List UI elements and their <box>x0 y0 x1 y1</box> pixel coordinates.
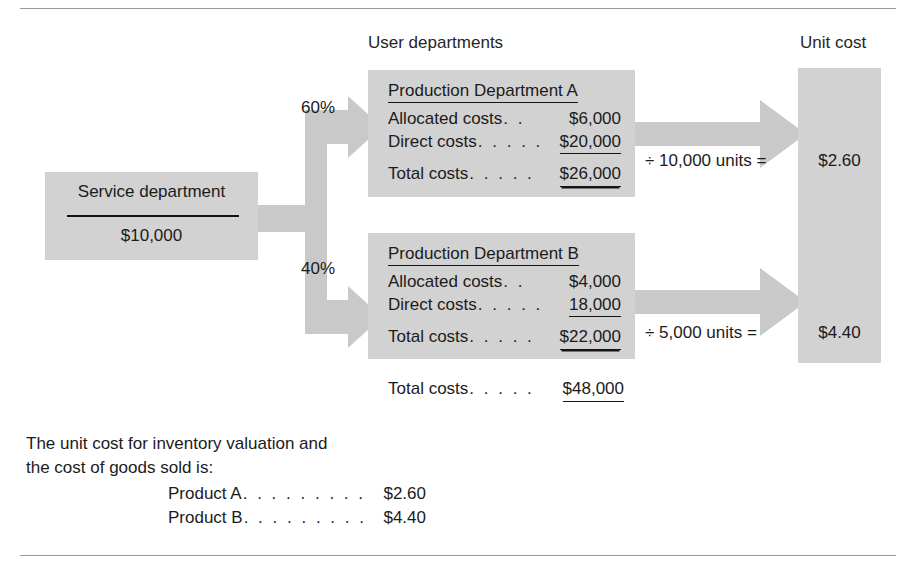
product-label: Product A <box>168 482 242 505</box>
cost-value: $22,000 <box>560 326 621 350</box>
unit-cost-column-box <box>798 68 881 363</box>
cost-label: Direct costs <box>388 131 477 154</box>
leader-dots: . . . . . <box>477 131 560 154</box>
leader-dots: . . . . . <box>468 326 559 349</box>
cost-value: $26,000 <box>560 163 621 187</box>
leader-dots: . . . . . . . . . <box>243 506 384 529</box>
cost-row: Total costs . . . . . $22,000 <box>388 326 621 350</box>
allocation-percent-a: 60% <box>301 98 335 118</box>
allocation-percent-b: 40% <box>301 259 335 279</box>
cost-row: Allocated costs . . $4,000 <box>388 271 621 294</box>
product-label: Product B <box>168 506 243 529</box>
leader-dots: . . . . . <box>468 163 559 186</box>
cost-row: Total costs . . . . . $26,000 <box>388 163 621 187</box>
leader-dots: . . . . . <box>468 378 562 401</box>
cost-label: Total costs <box>388 326 468 349</box>
service-department-amount: $10,000 <box>45 226 258 246</box>
cost-row: Total costs . . . . . $48,000 <box>388 378 624 402</box>
footer-note: The unit cost for inventory valuation an… <box>26 432 426 529</box>
production-department-b-title: Production Department B <box>388 244 579 266</box>
cost-row: Direct costs . . . . . $20,000 <box>388 131 621 155</box>
list-item: Product B . . . . . . . . . $4.40 <box>168 506 426 529</box>
product-value: $2.60 <box>383 482 426 505</box>
leader-dots: . . <box>502 271 569 294</box>
branch-arrow <box>258 96 382 348</box>
cost-row: Allocated costs . . $6,000 <box>388 108 621 131</box>
cost-label: Direct costs <box>388 294 477 317</box>
service-department-title: Service department <box>45 182 258 202</box>
cost-value: $48,000 <box>563 378 624 402</box>
cost-value: $6,000 <box>569 108 621 131</box>
note-line-2: the cost of goods sold is: <box>26 456 426 480</box>
list-item: Product A . . . . . . . . . $2.60 <box>168 482 426 505</box>
service-department-divider <box>67 215 239 217</box>
leader-dots: . . <box>502 108 569 131</box>
cost-label: Total costs <box>388 163 468 186</box>
cost-label: Allocated costs <box>388 271 502 294</box>
cost-label: Total costs <box>388 378 468 401</box>
cost-label: Allocated costs <box>388 108 502 131</box>
cost-value: $20,000 <box>560 131 621 155</box>
unit-cost-value-a: $2.60 <box>798 151 881 171</box>
unit-cost-value-b: $4.40 <box>798 323 881 343</box>
service-department-box: Service department $10,000 <box>45 172 258 260</box>
production-department-a-box: Production Department A Allocated costs … <box>368 70 635 197</box>
grand-total-row: Total costs . . . . . $48,000 <box>388 378 624 402</box>
cost-row: Direct costs . . . . . 18,000 <box>388 294 621 318</box>
divisor-text-a: ÷ 10,000 units = <box>645 151 766 171</box>
production-department-b-box: Production Department B Allocated costs … <box>368 233 635 359</box>
column-label-user-departments: User departments <box>368 33 503 53</box>
divisor-text-b: ÷ 5,000 units = <box>645 323 757 343</box>
product-unit-cost-list: Product A . . . . . . . . . $2.60 Produc… <box>168 482 426 529</box>
production-department-a-title: Production Department A <box>388 81 578 103</box>
leader-dots: . . . . . . . . . <box>242 482 384 505</box>
cost-allocation-diagram: User departments Unit cost Service depar… <box>0 0 916 577</box>
note-line-1: The unit cost for inventory valuation an… <box>26 432 426 456</box>
column-label-unit-cost: Unit cost <box>800 33 866 53</box>
product-value: $4.40 <box>383 506 426 529</box>
leader-dots: . . . . . <box>477 294 569 317</box>
cost-value: $4,000 <box>569 271 621 294</box>
cost-value: 18,000 <box>569 294 621 318</box>
